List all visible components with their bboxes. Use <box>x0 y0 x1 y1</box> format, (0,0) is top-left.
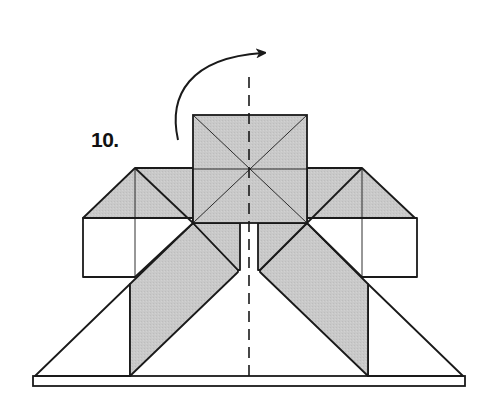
base-strip <box>33 376 465 386</box>
origami-diagram <box>0 0 495 414</box>
bottom-left-white-triangle <box>35 284 130 376</box>
right-gray-wing <box>307 168 417 223</box>
left-gray-wing <box>83 168 193 223</box>
top-gray-square <box>193 115 307 223</box>
bottom-right-white-triangle <box>368 284 463 376</box>
step-number: 10. <box>91 128 119 152</box>
